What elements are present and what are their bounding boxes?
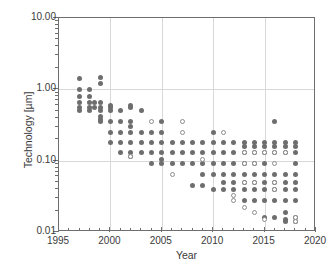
plot-area <box>58 17 315 231</box>
y-tick-minor <box>55 99 58 100</box>
data-point-filled <box>221 187 226 192</box>
data-point-filled <box>190 161 195 166</box>
data-point-filled <box>231 140 236 145</box>
data-point-filled <box>283 210 288 215</box>
x-tick-minor <box>192 228 193 231</box>
data-point-filled <box>231 161 236 166</box>
x-tick-label: 2000 <box>98 236 120 246</box>
data-point-open <box>272 161 277 166</box>
data-point-filled <box>272 172 277 177</box>
data-point-filled <box>272 144 277 149</box>
y-tick-minor <box>55 210 58 211</box>
data-point-open <box>128 154 133 159</box>
x-tick-minor <box>151 228 152 231</box>
data-point-filled <box>200 172 205 177</box>
data-point-filled <box>170 150 175 155</box>
data-point-filled <box>190 183 195 188</box>
data-point-filled <box>77 76 82 81</box>
data-point-filled <box>252 172 257 177</box>
data-point-filled <box>149 140 154 145</box>
data-point-filled <box>272 198 277 203</box>
y-tick-minor <box>55 117 58 118</box>
vertical-gridline <box>110 18 111 230</box>
y-tick-minor <box>55 167 58 168</box>
data-point-filled <box>77 108 82 113</box>
data-point-filled <box>87 87 92 92</box>
data-point-filled <box>221 172 226 177</box>
data-point-filled <box>77 87 82 92</box>
y-tick-minor <box>55 171 58 172</box>
data-point-filled <box>118 150 123 155</box>
y-tick-minor <box>55 24 58 25</box>
x-tick-major <box>58 227 59 232</box>
data-point-filled <box>262 187 267 192</box>
data-point-filled <box>211 130 216 135</box>
data-point-filled <box>98 75 103 80</box>
data-point-filled <box>293 180 298 185</box>
data-point-filled <box>128 124 133 129</box>
data-point-filled <box>221 140 226 145</box>
data-point-filled <box>180 140 185 145</box>
data-point-filled <box>242 187 247 192</box>
x-tick-minor <box>284 228 285 231</box>
data-point-open <box>272 180 277 185</box>
data-point-filled <box>283 219 288 224</box>
y-tick-label: 1.00 <box>37 83 56 93</box>
y-tick-minor <box>55 95 58 96</box>
y-tick-minor <box>55 38 58 39</box>
x-tick-major <box>315 227 316 232</box>
data-point-filled <box>262 180 267 185</box>
y-tick-minor <box>55 138 58 139</box>
data-point-open <box>242 205 247 210</box>
data-point-filled <box>139 140 144 145</box>
x-tick-minor <box>243 228 244 231</box>
data-point-filled <box>262 198 267 203</box>
x-tick-major <box>109 227 110 232</box>
y-tick-minor <box>55 163 58 164</box>
data-point-filled <box>283 187 288 192</box>
data-point-filled <box>293 161 298 166</box>
data-point-filled <box>293 198 298 203</box>
data-point-filled <box>200 161 205 166</box>
data-point-open <box>252 161 257 166</box>
data-point-filled <box>180 150 185 155</box>
x-tick-minor <box>120 228 121 231</box>
data-point-filled <box>211 150 216 155</box>
data-point-open <box>262 150 267 155</box>
data-point-filled <box>200 150 205 155</box>
data-point-filled <box>272 119 277 124</box>
data-point-filled <box>262 161 267 166</box>
data-point-filled <box>159 140 164 145</box>
x-tick-minor <box>233 228 234 231</box>
data-point-filled <box>128 105 133 110</box>
x-tick-minor <box>68 228 69 231</box>
data-point-filled <box>98 108 103 113</box>
data-point-filled <box>231 172 236 177</box>
data-point-filled <box>118 130 123 135</box>
data-point-filled <box>283 144 288 149</box>
x-tick-label: 1995 <box>47 236 69 246</box>
data-point-filled <box>293 150 298 155</box>
x-tick-minor <box>222 228 223 231</box>
data-point-filled <box>293 172 298 177</box>
data-point-filled <box>231 187 236 192</box>
data-point-filled <box>98 81 103 86</box>
data-point-open <box>272 187 277 192</box>
vertical-gridline <box>213 18 214 230</box>
data-point-filled <box>200 140 205 145</box>
data-point-open <box>180 119 185 124</box>
data-point-filled <box>118 140 123 145</box>
y-tick-minor <box>55 175 58 176</box>
data-point-filled <box>87 94 92 99</box>
data-point-open <box>242 150 247 155</box>
x-tick-major <box>161 227 162 232</box>
data-point-filled <box>118 119 123 124</box>
data-point-filled <box>283 198 288 203</box>
data-point-filled <box>149 161 154 166</box>
data-point-filled <box>283 180 288 185</box>
y-tick-minor <box>55 110 58 111</box>
x-tick-minor <box>99 228 100 231</box>
data-point-filled <box>211 187 216 192</box>
data-point-filled <box>211 140 216 145</box>
data-point-filled <box>108 140 113 145</box>
